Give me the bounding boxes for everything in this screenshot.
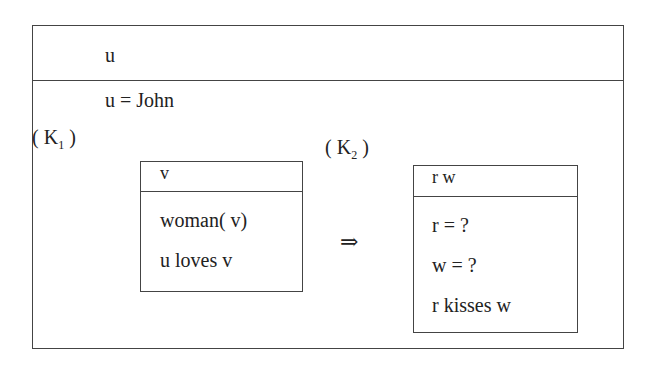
- k2-label: ( K2 ): [325, 136, 369, 163]
- outer-condition: u = John: [105, 89, 174, 112]
- k1-subscript: 1: [58, 138, 64, 152]
- k2-condition: r = ?: [432, 214, 469, 237]
- k2-subscript: 2: [351, 148, 357, 162]
- k1-label: ( K1 ): [32, 126, 76, 153]
- outer-drs-universe-section: [33, 26, 623, 81]
- implication-arrow-icon: ⇒: [340, 229, 358, 255]
- k2-condition: w = ?: [432, 254, 477, 277]
- k1-label-letter: K: [44, 126, 58, 148]
- k2-label-letter: K: [337, 136, 351, 158]
- k2-universe: r w: [432, 167, 456, 188]
- outer-universe: u: [105, 44, 115, 67]
- k1-condition: u loves v: [160, 249, 232, 272]
- k1-condition: woman( v): [160, 209, 247, 232]
- k2-condition: r kisses w: [432, 294, 511, 317]
- k1-universe: v: [160, 163, 169, 184]
